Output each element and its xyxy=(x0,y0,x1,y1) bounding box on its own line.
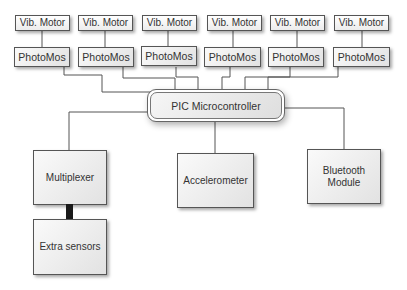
vib-motor-2: Vib. Motor xyxy=(78,15,133,31)
multiplexer-bus xyxy=(66,204,73,219)
bluetooth-label-line2: Module xyxy=(328,177,361,189)
multiplexer-label: Multiplexer xyxy=(46,172,94,184)
vib-motor-label: Vib. Motor xyxy=(212,17,257,29)
photomos-1: PhotoMos xyxy=(14,47,70,67)
photomos-label: PhotoMos xyxy=(209,51,256,63)
pic-microcontroller: PIC Microcontroller xyxy=(147,89,285,122)
vib-motor-4: Vib. Motor xyxy=(207,15,262,31)
vib-motor-3: Vib. Motor xyxy=(142,15,197,31)
photomos-4: PhotoMos xyxy=(204,47,261,67)
vib-motor-6: Vib. Motor xyxy=(334,15,389,31)
vib-motor-1: Vib. Motor xyxy=(15,15,70,31)
photomos-3: PhotoMos xyxy=(141,46,197,66)
vib-motor-label: Vib. Motor xyxy=(147,17,192,29)
photomos-6: PhotoMos xyxy=(333,47,390,67)
vib-motor-label: Vib. Motor xyxy=(339,17,384,29)
accelerometer: Accelerometer xyxy=(177,153,254,208)
multiplexer: Multiplexer xyxy=(33,150,107,205)
extra-sensors: Extra sensors xyxy=(33,219,107,275)
photomos-5: PhotoMos xyxy=(268,47,324,67)
vib-motor-label: Vib. Motor xyxy=(275,17,320,29)
extra-sensors-label: Extra sensors xyxy=(39,241,100,253)
pic-microcontroller-label: PIC Microcontroller xyxy=(171,100,260,112)
photomos-label: PhotoMos xyxy=(338,51,385,63)
photomos-label: PhotoMos xyxy=(272,51,319,63)
photomos-2: PhotoMos xyxy=(78,47,134,67)
vib-motor-label: Vib. Motor xyxy=(20,17,65,29)
photomos-label: PhotoMos xyxy=(18,51,65,63)
photomos-label: PhotoMos xyxy=(145,50,192,62)
photomos-label: PhotoMos xyxy=(82,51,129,63)
bluetooth-label-line1: Bluetooth xyxy=(323,165,365,177)
bluetooth-module: Bluetooth Module xyxy=(307,149,381,204)
accelerometer-label: Accelerometer xyxy=(183,175,247,187)
vib-motor-5: Vib. Motor xyxy=(270,15,325,31)
vib-motor-label: Vib. Motor xyxy=(83,17,128,29)
